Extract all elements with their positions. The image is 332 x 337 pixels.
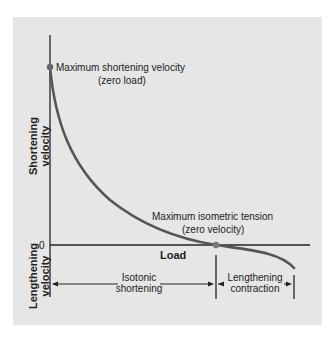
y-lower-line1: Lengthening (27, 233, 39, 319)
force-velocity-curve (50, 67, 294, 268)
max-shortening-line1: Maximum shortening velocity (56, 62, 185, 73)
max-isometric-line2: (zero velocity) (182, 224, 244, 235)
y-axis-lengthening-label: Lengthening velocity (27, 233, 51, 319)
isotonic-label: Isotonic shortening (114, 272, 164, 294)
max-shortening-point (47, 64, 53, 70)
max-shortening-label: Maximum shortening velocity (56, 62, 185, 73)
max-shortening-line2: (zero load) (98, 75, 146, 86)
lengthening-line2: contraction (224, 283, 286, 294)
y-upper-line2: velocity (39, 111, 51, 181)
isotonic-line2: shortening (114, 283, 164, 294)
y-lower-line2: velocity (39, 233, 51, 319)
max-isometric-point (213, 242, 219, 248)
max-shortening-sublabel: (zero load) (98, 75, 146, 86)
arrow-left-icon (52, 282, 58, 287)
isotonic-line1: Isotonic (114, 272, 164, 283)
lengthening-line1: Lengthening (224, 272, 286, 283)
max-isometric-label: Maximum isometric tension (152, 211, 273, 222)
lengthening-contraction-label: Lengthening contraction (224, 272, 286, 294)
max-isometric-line1: Maximum isometric tension (152, 211, 273, 222)
arrow-right-icon (286, 282, 292, 287)
y-axis-shortening-label: Shortening velocity (27, 111, 51, 181)
x-axis-label: Load (160, 250, 186, 261)
arrow-right-icon (208, 282, 214, 287)
max-isometric-sublabel: (zero velocity) (182, 224, 244, 235)
y-upper-line1: Shortening (27, 111, 39, 181)
